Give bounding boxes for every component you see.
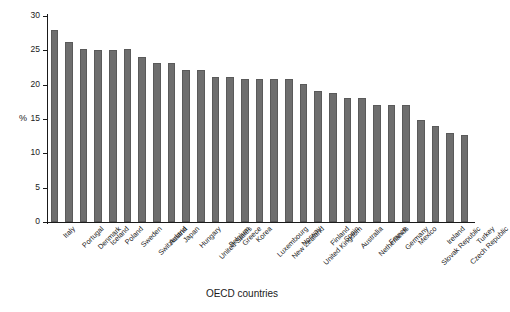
bar	[109, 50, 117, 222]
bar	[241, 79, 249, 222]
y-tick: 5	[0, 188, 47, 189]
y-tick: 0	[0, 222, 47, 223]
bar-slot	[325, 16, 340, 222]
x-tick-label: Hungary	[198, 225, 223, 250]
bar-slot	[76, 16, 91, 222]
bar	[432, 126, 440, 222]
bar-slot	[120, 16, 135, 222]
y-tick: 30	[0, 16, 47, 17]
y-tick-label: 0	[35, 216, 40, 227]
bar-slot	[62, 16, 77, 222]
bar	[358, 98, 366, 222]
y-tick-mark	[43, 222, 47, 223]
bar-slot	[91, 16, 106, 222]
bar-slot	[399, 16, 414, 222]
bar-slot	[340, 16, 355, 222]
y-tick-label: 10	[31, 147, 40, 158]
bar	[314, 91, 322, 222]
bar	[402, 105, 410, 222]
bar-slot	[208, 16, 223, 222]
y-tick: 10	[0, 153, 47, 154]
bar-slot	[194, 16, 209, 222]
y-tick: 15	[0, 119, 47, 120]
bar-slot	[150, 16, 165, 222]
bar-slot	[457, 16, 472, 222]
y-tick-label: 30	[31, 10, 40, 21]
bar-slot	[428, 16, 443, 222]
y-tick-label: 25	[31, 44, 40, 55]
bar-slot	[135, 16, 150, 222]
y-tick: 20	[0, 85, 47, 86]
bar	[182, 70, 190, 222]
x-axis-line	[47, 222, 475, 223]
bar-slot	[281, 16, 296, 222]
bar-slot	[384, 16, 399, 222]
bar-slot	[223, 16, 238, 222]
bar	[373, 105, 381, 222]
bar-slot	[267, 16, 282, 222]
bar	[256, 79, 264, 222]
bar	[124, 49, 132, 222]
bar	[417, 120, 425, 222]
bar	[138, 57, 146, 222]
bar	[212, 77, 220, 222]
bar-slot	[355, 16, 370, 222]
bar-slot	[413, 16, 428, 222]
bar	[329, 93, 337, 222]
bar	[446, 133, 454, 222]
bar-slot	[252, 16, 267, 222]
bar-slot	[296, 16, 311, 222]
y-tick-label: 5	[35, 182, 40, 193]
x-tick-label: Italy	[62, 225, 77, 240]
bar	[300, 84, 308, 222]
bar	[285, 79, 293, 222]
bar-slot	[164, 16, 179, 222]
bar	[270, 79, 278, 222]
bar-slot	[179, 16, 194, 222]
bar-slot	[47, 16, 62, 222]
y-tick-label: 20	[31, 79, 40, 90]
bar-slot	[369, 16, 384, 222]
bar	[153, 63, 161, 222]
bar-slot	[106, 16, 121, 222]
bar	[344, 98, 352, 222]
bar	[461, 135, 469, 222]
bar	[197, 70, 205, 222]
y-tick: 25	[0, 50, 47, 51]
bar	[94, 50, 102, 222]
bar	[388, 105, 396, 222]
bar	[80, 49, 88, 222]
bar-slot	[238, 16, 253, 222]
bar-slot	[311, 16, 326, 222]
y-tick-label: 15	[31, 113, 40, 124]
x-axis-label: OECD countries	[0, 288, 484, 299]
bar-slot	[443, 16, 458, 222]
bar	[226, 77, 234, 222]
bar	[51, 30, 59, 222]
plot-area	[47, 16, 472, 222]
bar	[168, 63, 176, 222]
bar	[65, 42, 73, 222]
